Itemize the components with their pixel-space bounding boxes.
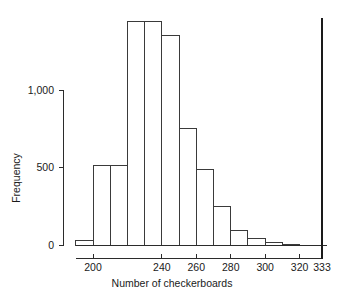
x-tick-label: 240 bbox=[153, 261, 171, 273]
x-tick-label: 260 bbox=[188, 261, 206, 273]
x-tick-label: 280 bbox=[222, 261, 240, 273]
x-axis: 200240260280300320333 bbox=[76, 254, 331, 274]
histogram-bar bbox=[93, 166, 110, 245]
histogram-bar bbox=[127, 21, 144, 245]
histogram-bar bbox=[231, 230, 248, 245]
checkerboards-histogram: 05001,000 200240260280300320333 Number o… bbox=[0, 0, 344, 300]
y-tick-label: 0 bbox=[48, 239, 54, 251]
x-tick-label: 300 bbox=[256, 261, 274, 273]
y-tick-label: 500 bbox=[36, 161, 54, 173]
histogram-bar bbox=[179, 129, 196, 245]
y-axis: 05001,000 bbox=[28, 84, 64, 251]
histogram-bar bbox=[214, 206, 231, 245]
x-tick-label: 333 bbox=[313, 261, 331, 273]
histogram-bar bbox=[145, 21, 162, 245]
x-axis-title: Number of checkerboards bbox=[112, 277, 233, 289]
x-tick-label: 200 bbox=[84, 261, 102, 273]
histogram-bar bbox=[248, 238, 265, 245]
histogram-bar bbox=[76, 240, 93, 245]
histogram-bar bbox=[162, 36, 179, 245]
x-tick-label: 320 bbox=[291, 261, 309, 273]
histogram-figure: 05001,000 200240260280300320333 Number o… bbox=[0, 0, 344, 300]
histogram-bars bbox=[76, 21, 327, 245]
y-tick-label: 1,000 bbox=[28, 84, 54, 96]
y-axis-title: Frequency bbox=[10, 152, 22, 202]
histogram-bar bbox=[196, 169, 213, 245]
histogram-bar bbox=[110, 166, 127, 245]
